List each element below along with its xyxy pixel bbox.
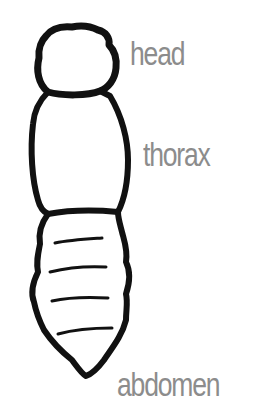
insect-diagram: [0, 0, 256, 416]
abdomen-label: abdomen: [117, 367, 219, 401]
head-label: head: [130, 36, 184, 70]
thorax-label: thorax: [143, 137, 210, 171]
abdomen-segment-line: [50, 267, 106, 272]
head-shape: [38, 26, 116, 95]
abdomen-segment-line: [52, 297, 108, 301]
abdomen-segment-line: [58, 328, 112, 334]
abdomen-shape: [32, 212, 129, 376]
abdomen-segment-line: [55, 238, 102, 243]
thorax-shape: [32, 91, 128, 214]
